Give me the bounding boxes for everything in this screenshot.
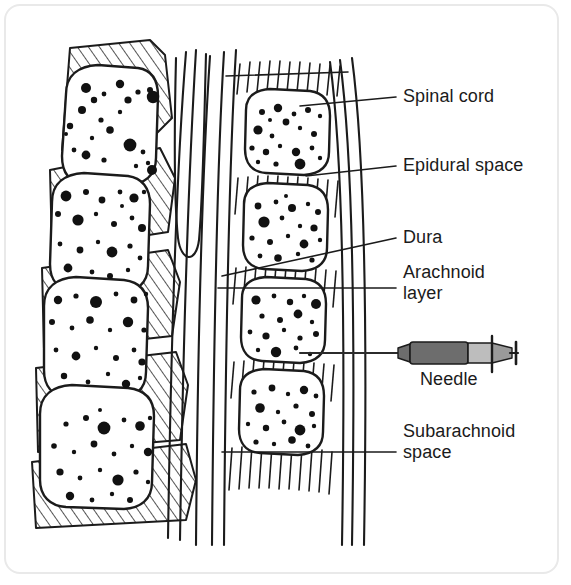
left-vertebral-column <box>32 40 196 528</box>
label-subarachnoid-space: Subarachnoid space <box>403 421 515 463</box>
needle-syringe <box>300 336 518 372</box>
needle-barrel <box>410 342 468 364</box>
label-spinal-cord: Spinal cord <box>403 86 494 107</box>
needle-plunger-chamber <box>468 343 492 363</box>
needle-hub <box>398 344 410 362</box>
label-arachnoid-layer-line2: layer <box>403 283 485 304</box>
right-vertebral-column <box>212 50 366 545</box>
label-needle: Needle <box>420 369 478 390</box>
figure-root: Spinal cord Epidural space Dura Arachnoi… <box>0 0 571 585</box>
vertebral-bodies-left <box>40 65 158 509</box>
label-dura: Dura <box>403 227 442 248</box>
label-epidural-space: Epidural space <box>403 155 523 176</box>
label-subarachnoid-space-line2: space <box>403 442 515 463</box>
label-arachnoid-layer-line1: Arachnoid <box>403 262 485 283</box>
label-arachnoid-layer: Arachnoid layer <box>403 262 485 304</box>
label-subarachnoid-space-line1: Subarachnoid <box>403 421 515 442</box>
